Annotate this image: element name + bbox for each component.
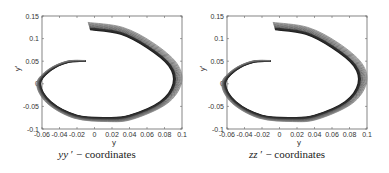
x-tick-label: 0.04 xyxy=(123,131,137,138)
x-tick-label: 0.04 xyxy=(308,131,322,138)
x-tick-label: 0.08 xyxy=(343,131,357,138)
plot-area-zz: -0.06-0.04-0.0200.020.040.060.080.10.150… xyxy=(185,0,389,150)
y-axis-label: y′ xyxy=(13,65,22,71)
y-tick-label: -0.1 xyxy=(212,126,224,133)
chart-yy: -0.06-0.04-0.0200.020.040.060.080.10.150… xyxy=(0,0,194,173)
y-tick-label: -0.05 xyxy=(208,103,224,110)
chart-zz: -0.06-0.04-0.0200.020.040.060.080.10.150… xyxy=(185,0,379,173)
plot-area-yy: -0.06-0.04-0.0200.020.040.060.080.10.150… xyxy=(0,0,194,150)
caption-yy: yy ′ − coordinates xyxy=(0,148,194,160)
x-tick-label: -0.02 xyxy=(69,131,85,138)
x-tick-label: 0.06 xyxy=(325,131,339,138)
caption-text: ′ − coordinates xyxy=(68,148,136,160)
caption-text: ′ − coordinates xyxy=(257,148,325,160)
y-tick-label: 0.15 xyxy=(25,13,39,20)
x-axis-label: y xyxy=(297,138,301,147)
x-tick-label: -0.02 xyxy=(254,131,270,138)
x-tick-label: 0.02 xyxy=(290,131,304,138)
x-tick-label: -0.04 xyxy=(52,131,68,138)
y-tick-label: 0.1 xyxy=(29,35,39,42)
y-tick-label: 0.05 xyxy=(25,58,39,65)
x-tick-label: 0.06 xyxy=(140,131,154,138)
x-tick-label: 0.02 xyxy=(105,131,119,138)
caption-zz: zz ′ − coordinates xyxy=(185,148,389,160)
x-tick-label: 0 xyxy=(278,131,282,138)
caption-var: yy xyxy=(58,148,68,160)
y-tick-label: 0.05 xyxy=(210,58,224,65)
y-tick-label: 0.1 xyxy=(214,35,224,42)
y-axis-label: y′ xyxy=(198,65,207,71)
y-tick-label: -0.05 xyxy=(23,103,39,110)
y-tick-label: 0.15 xyxy=(210,13,224,20)
x-axis-label: y xyxy=(112,138,116,147)
x-tick-label: 0 xyxy=(93,131,97,138)
x-tick-label: -0.04 xyxy=(237,131,253,138)
y-tick-label: -0.1 xyxy=(27,126,39,133)
x-tick-label: 0.1 xyxy=(362,131,372,138)
x-tick-label: 0.08 xyxy=(158,131,172,138)
